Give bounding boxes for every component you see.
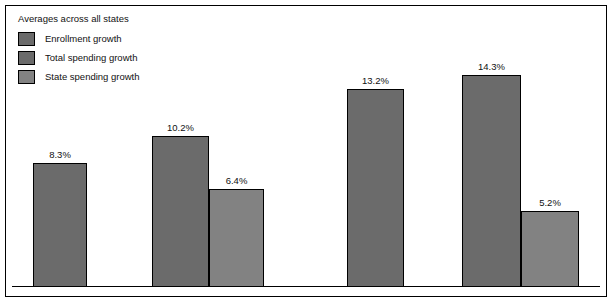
legend-swatch-icon xyxy=(18,51,35,65)
bar-value-label: 5.2% xyxy=(539,197,561,208)
legend-item-enrollment-growth: Enrollment growth xyxy=(18,29,140,48)
bar-value-label: 14.3% xyxy=(478,61,505,72)
legend-item-label: State spending growth xyxy=(45,71,140,82)
bar xyxy=(152,136,209,287)
bar xyxy=(347,89,404,287)
bar-value-label: 8.3% xyxy=(49,149,71,160)
legend-item-total-spending-growth: Total spending growth xyxy=(18,48,140,67)
plot-area: Averages across all states Enrollment gr… xyxy=(6,6,606,296)
bar-value-label: 13.2% xyxy=(362,75,389,86)
legend-item-label: Enrollment growth xyxy=(45,33,122,44)
chart-frame: Averages across all states Enrollment gr… xyxy=(5,5,607,297)
legend-swatch-icon xyxy=(18,70,35,84)
bar xyxy=(209,189,264,287)
bar xyxy=(33,163,87,287)
bar-value-label: 10.2% xyxy=(167,122,194,133)
legend-title: Averages across all states xyxy=(18,13,140,25)
legend-swatch-icon xyxy=(18,32,35,46)
axis-baseline xyxy=(12,286,600,287)
legend: Averages across all states Enrollment gr… xyxy=(18,13,140,86)
bar xyxy=(462,75,521,287)
legend-item-label: Total spending growth xyxy=(45,52,137,63)
bar xyxy=(521,211,579,287)
bar-value-label: 6.4% xyxy=(226,175,248,186)
legend-item-state-spending-growth: State spending growth xyxy=(18,67,140,86)
bar-chart-figure: Averages across all states Enrollment gr… xyxy=(0,0,615,308)
